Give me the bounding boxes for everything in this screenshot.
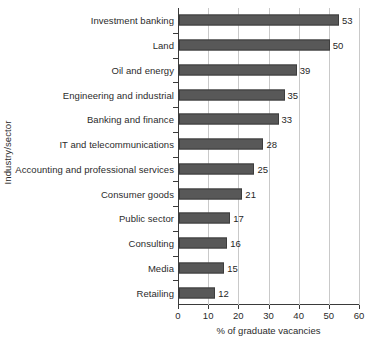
bar: [179, 40, 330, 51]
y-axis-tick: [173, 132, 178, 133]
category-label: Media: [148, 262, 174, 273]
y-axis-tick: [173, 82, 178, 83]
y-axis-title: Industry/sector: [0, 0, 16, 305]
y-axis-tick: [173, 157, 178, 158]
x-axis-tick-label: 50: [324, 310, 335, 321]
bar-value-label: 53: [342, 15, 353, 26]
y-axis-tick: [173, 33, 178, 34]
bar-value-label: 12: [218, 287, 229, 298]
bar-value-label: 39: [300, 64, 311, 75]
y-axis-tick: [173, 206, 178, 207]
y-axis-tick: [173, 231, 178, 232]
bar-chart: Industry/sector Investment banking53Land…: [0, 0, 379, 350]
x-axis-tick-label: 10: [203, 310, 214, 321]
bar-row: Investment banking53: [178, 8, 359, 33]
bar-row: Consulting16: [178, 231, 359, 256]
bar-value-label: 15: [227, 262, 238, 273]
x-axis-tick: [329, 305, 330, 309]
bar: [179, 64, 297, 75]
category-label: Accounting and professional services: [15, 163, 174, 174]
y-axis-tick: [173, 58, 178, 59]
y-axis-tick: [173, 181, 178, 182]
bar: [179, 163, 254, 174]
bar: [179, 15, 339, 26]
category-label: Land: [153, 40, 174, 51]
x-axis-title: % of graduate vacancies: [178, 325, 359, 336]
category-label: Banking and finance: [87, 114, 174, 125]
bar-value-label: 21: [245, 188, 256, 199]
x-axis-tick-label: 60: [354, 310, 365, 321]
category-label: Consulting: [129, 238, 174, 249]
category-label: Oil and energy: [112, 64, 175, 75]
y-axis-tick: [173, 107, 178, 108]
bar-value-label: 16: [230, 238, 241, 249]
bar: [179, 89, 285, 100]
category-label: Retailing: [137, 287, 174, 298]
bar-row: Land50: [178, 33, 359, 58]
bar: [179, 262, 224, 273]
y-axis-tick: [173, 280, 178, 281]
bar-value-label: 25: [257, 163, 268, 174]
bar-row: Public sector17: [178, 206, 359, 231]
category-label: Engineering and industrial: [63, 89, 174, 100]
bar: [179, 287, 215, 298]
category-label: Investment banking: [91, 15, 174, 26]
x-axis-tick: [359, 305, 360, 309]
bar: [179, 139, 263, 150]
bar-value-label: 35: [288, 89, 299, 100]
bar-value-label: 17: [233, 213, 244, 224]
bar-row: Accounting and professional services25: [178, 157, 359, 182]
bar-row: Oil and energy39: [178, 58, 359, 83]
x-axis-tick-label: 30: [263, 310, 274, 321]
bar-row: Consumer goods21: [178, 181, 359, 206]
bar-value-label: 33: [282, 114, 293, 125]
bar-row: IT and telecommunications28: [178, 132, 359, 157]
x-axis-tick: [269, 305, 270, 309]
x-axis-tick-label: 20: [233, 310, 244, 321]
bar-row: Banking and finance33: [178, 107, 359, 132]
x-axis-tick: [238, 305, 239, 309]
y-axis-tick: [173, 256, 178, 257]
y-axis-title-label: Industry/sector: [3, 121, 14, 185]
x-axis-tick-label: 0: [175, 310, 180, 321]
bar-value-label: 50: [333, 40, 344, 51]
bar-value-label: 28: [266, 139, 277, 150]
x-axis-tick-label: 40: [293, 310, 304, 321]
bar: [179, 188, 242, 199]
bar: [179, 114, 279, 125]
category-label: Consumer goods: [101, 188, 174, 199]
bar-row: Engineering and industrial35: [178, 82, 359, 107]
plot-area: Investment banking53Land50Oil and energy…: [178, 8, 359, 305]
bar-row: Media15: [178, 256, 359, 281]
bar: [179, 213, 230, 224]
gridline: [359, 8, 360, 305]
x-axis-tick: [208, 305, 209, 309]
bar: [179, 238, 227, 249]
x-axis-tick: [299, 305, 300, 309]
category-label: Public sector: [119, 213, 174, 224]
bar-row: Retailing12: [178, 280, 359, 305]
category-label: IT and telecommunications: [59, 139, 174, 150]
x-axis-tick: [178, 305, 179, 309]
